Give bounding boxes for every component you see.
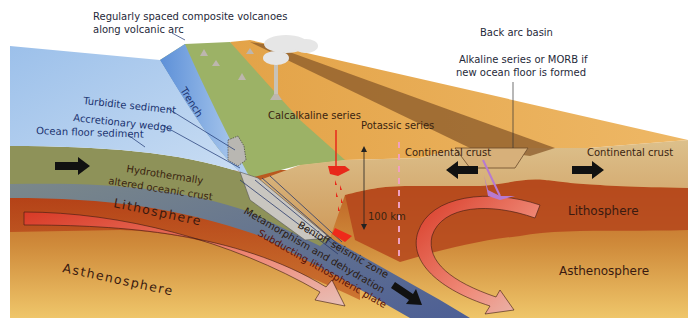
label-asthenosphere-right: Asthenosphere [559, 264, 649, 278]
label-volcanoes-1: Regularly spaced composite volcanoes [93, 11, 287, 22]
label-alkaline-2: new ocean floor is formed [456, 67, 586, 78]
label-potassic: Potassic series [361, 120, 434, 131]
label-lithosphere-right: Lithosphere [568, 204, 639, 218]
label-depth: 100 km [368, 211, 406, 222]
label-continental-crust-right: Continental crust [587, 147, 673, 158]
subduction-diagram: Regularly spaced composite volcanoes alo… [0, 0, 700, 332]
label-volcanoes-2: along volcanic arc [93, 24, 184, 35]
label-back-arc-basin: Back arc basin [480, 27, 553, 38]
label-calcalkaline: Calcalkaline series [268, 110, 361, 121]
label-continental-crust-left: Continental crust [405, 147, 491, 158]
label-alkaline-1: Alkaline series or MORB if [459, 54, 588, 65]
